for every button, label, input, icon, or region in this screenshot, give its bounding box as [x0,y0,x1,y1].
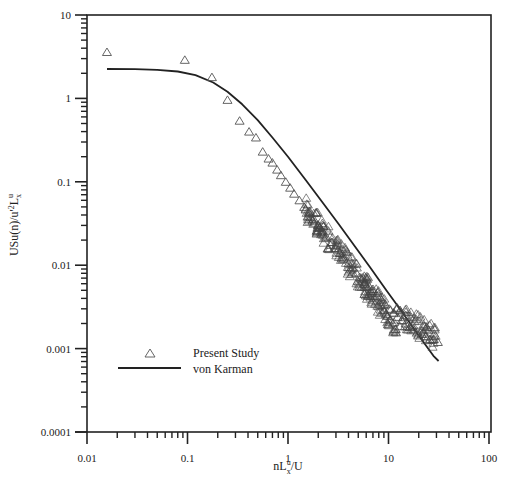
plot-frame [87,15,491,432]
x-tick-label: 100 [481,452,498,464]
y-tick-label: 1 [66,92,72,104]
legend: Present Study von Karman [118,346,259,376]
chart-figure: 0.010.1110100 0.00010.0010.010.1110 Pres… [0,0,507,495]
legend-label-von-karman: von Karman [193,362,253,376]
y-tick-label: 0.1 [57,176,71,188]
legend-triangle-icon [145,349,155,357]
y-axis: 0.00010.0010.010.1110 [41,9,87,438]
y-tick-label: 0.001 [46,343,71,355]
plot-border [87,15,491,432]
y-tick-label: 0.0001 [41,426,71,438]
y-tick-label: 10 [60,9,72,21]
y-tick-label: 0.01 [52,259,71,271]
x-tick-label: 0.1 [181,452,195,464]
x-tick-label: 0.01 [77,452,96,464]
x-tick-label: 10 [383,452,395,464]
present-study-points [102,48,442,350]
x-axis-title: nLxu/U [273,458,303,476]
y-axis-title: USu(n)/u'2Lxu [6,194,23,256]
legend-label-present-study: Present Study [193,346,259,360]
